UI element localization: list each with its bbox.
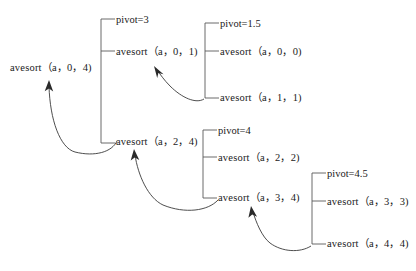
node-avesort-0-0: avesort（a，0，0) bbox=[220, 46, 302, 58]
return-to-0-1-arrow bbox=[154, 66, 204, 101]
recursion-tree-diagram: avesort（a，0，4) pivot=3 avesort（a，0，1) av… bbox=[0, 0, 416, 271]
node-root: avesort（a，0，4) bbox=[10, 62, 92, 74]
bracket-2-4 bbox=[203, 130, 217, 198]
node-avesort-3-3: avesort（a，3，3) bbox=[327, 196, 409, 208]
node-avesort-3-4: avesort（a，3，4) bbox=[218, 192, 300, 204]
return-to-root-arrow bbox=[45, 80, 117, 154]
return-to-3-4-arrow bbox=[248, 206, 311, 251]
bracket-0-1 bbox=[205, 23, 219, 98]
node-avesort-0-1: avesort（a，0，1) bbox=[116, 46, 198, 58]
node-pivot-4-5: pivot=4.5 bbox=[327, 168, 368, 180]
bracket-3-4 bbox=[312, 173, 326, 244]
node-avesort-1-1: avesort（a，1，1) bbox=[220, 92, 302, 104]
node-avesort-4-4: avesort（a，4，4) bbox=[327, 238, 409, 250]
bracket-root bbox=[101, 19, 115, 143]
node-pivot-3: pivot=3 bbox=[116, 14, 149, 26]
node-pivot-4: pivot=4 bbox=[218, 125, 251, 137]
return-to-2-4-arrow bbox=[131, 149, 218, 210]
diagram-lines-layer bbox=[0, 0, 416, 271]
node-avesort-2-2: avesort（a，2，2) bbox=[218, 152, 300, 164]
node-pivot-1-5: pivot=1.5 bbox=[220, 18, 261, 30]
node-avesort-2-4: avesort（a，2，4) bbox=[116, 136, 198, 148]
